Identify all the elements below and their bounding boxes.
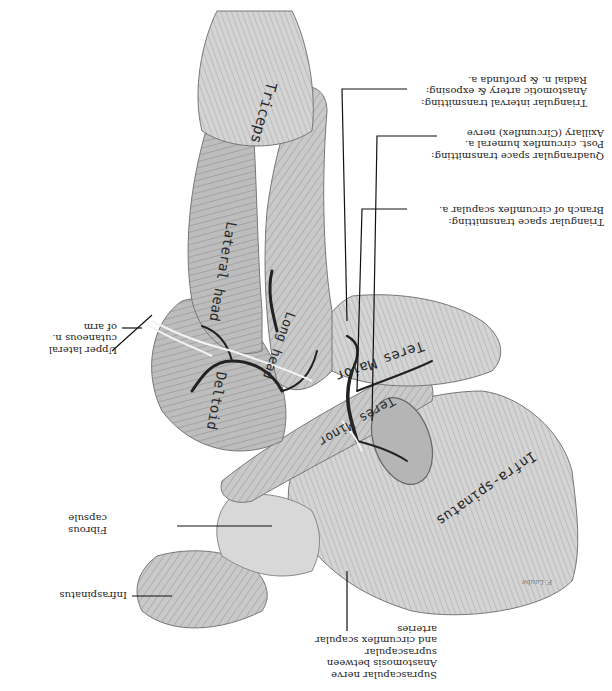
suprascapular-label: Suprascapular nerve Anastomosis between …	[315, 624, 437, 682]
anatomical-plate: Triceps Lateral head Long head Teres Maj…	[0, 0, 612, 691]
triangular-space-label: Triangular space transmitting: Branch of…	[439, 205, 604, 228]
artist-signature: F. Laube	[522, 578, 552, 586]
infraspinatus-label-text: Infraspinatus	[59, 590, 127, 602]
quadrangular-space-label: Quadrangular space transmitting: Post. c…	[431, 128, 604, 163]
upper-lateral-cutaneous-label: Upper lateral cutaneous n. of arm	[49, 322, 117, 357]
triangular-interval-label: Triangular interval transmitting: Anasto…	[421, 75, 587, 110]
fibrous-capsule-label: Fibrous capsule	[68, 513, 107, 536]
